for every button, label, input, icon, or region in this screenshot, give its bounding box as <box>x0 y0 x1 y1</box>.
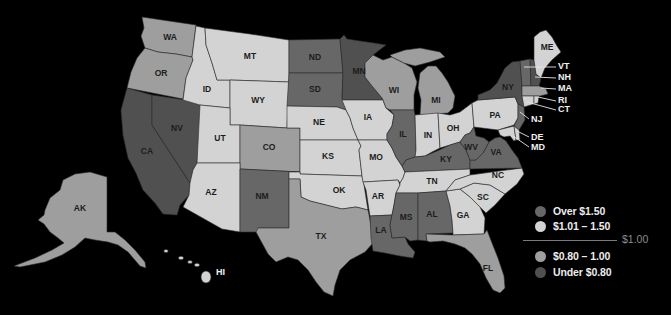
label-id: ID <box>203 84 212 94</box>
label-mn: MN <box>352 66 365 76</box>
label-mo: MO <box>369 152 383 162</box>
legend-item-over-1-50: Over $1.50 <box>535 204 605 218</box>
label-tx: TX <box>316 231 327 241</box>
label-or: OR <box>155 68 168 78</box>
label-tn: TN <box>426 176 437 186</box>
state-ct[interactable] <box>522 96 534 107</box>
leader-line-ct <box>527 102 556 110</box>
label-nh: NH <box>558 72 571 82</box>
label-fl: FL <box>483 263 493 273</box>
legend-swatch-icon <box>535 251 546 262</box>
label-ks: KS <box>322 151 334 161</box>
label-al: AL <box>426 209 437 219</box>
legend-item-under-0-80: Under $0.80 <box>535 265 611 279</box>
label-wy: WY <box>251 95 265 105</box>
label-in: IN <box>424 130 433 140</box>
label-wi: WI <box>389 85 399 95</box>
state-ma[interactable] <box>522 86 548 96</box>
label-ut: UT <box>214 133 226 143</box>
legend-swatch-icon <box>535 206 546 217</box>
threshold-divider <box>523 240 617 241</box>
label-ne: NE <box>313 117 325 127</box>
label-nv: NV <box>171 123 183 133</box>
label-ok: OK <box>333 185 347 195</box>
state-mi[interactable] <box>418 66 455 115</box>
label-ia: IA <box>364 112 373 122</box>
label-nm: NM <box>255 191 268 201</box>
state-fl[interactable] <box>426 230 505 293</box>
legend-swatch-icon <box>535 267 546 278</box>
label-nd: ND <box>309 52 321 62</box>
label-az: AZ <box>205 187 216 197</box>
state-ak[interactable] <box>14 172 146 268</box>
label-ar: AR <box>372 191 384 201</box>
legend-label: $1.01 – 1.50 <box>553 220 610 232</box>
label-pa: PA <box>489 110 500 120</box>
label-wv: WV <box>464 142 478 152</box>
label-de: DE <box>531 132 544 142</box>
label-va: VA <box>490 147 501 157</box>
leader-line-md <box>513 136 529 147</box>
leader-line-ri <box>538 97 556 101</box>
legend-swatch-icon <box>535 221 546 232</box>
label-la: LA <box>375 225 386 235</box>
threshold-label: $1.00 <box>622 233 648 245</box>
label-me: ME <box>541 42 554 52</box>
legend-item-1-01-1-50: $1.01 – 1.50 <box>535 219 610 233</box>
label-sc: SC <box>477 192 489 202</box>
label-ca: CA <box>141 146 153 156</box>
label-il: IL <box>399 129 407 139</box>
label-vt: VT <box>558 61 570 71</box>
label-oh: OH <box>447 123 460 133</box>
label-mi: MI <box>431 95 440 105</box>
label-nc: NC <box>492 170 504 180</box>
legend-label: Under $0.80 <box>553 266 611 278</box>
label-hi: HI <box>216 267 225 277</box>
legend-item-0-80-1-00: $0.80 – 1.00 <box>535 249 610 263</box>
label-ma: MA <box>558 83 572 93</box>
label-ny: NY <box>502 82 514 92</box>
label-mt: MT <box>244 51 257 61</box>
label-md: MD <box>531 142 545 152</box>
label-ky: KY <box>440 154 452 164</box>
legend-label: Over $1.50 <box>553 205 605 217</box>
state-vt[interactable] <box>520 59 531 86</box>
label-wa: WA <box>163 32 177 42</box>
label-ak: AK <box>74 203 87 213</box>
label-sd: SD <box>309 84 321 94</box>
label-nj: NJ <box>531 114 543 124</box>
state-hi[interactable] <box>164 249 211 283</box>
legend-label: $0.80 – 1.00 <box>553 250 610 262</box>
label-ms: MS <box>400 212 413 222</box>
label-ct: CT <box>558 104 570 114</box>
label-ga: GA <box>457 210 470 220</box>
label-co: CO <box>263 142 276 152</box>
state-me[interactable] <box>534 30 561 78</box>
